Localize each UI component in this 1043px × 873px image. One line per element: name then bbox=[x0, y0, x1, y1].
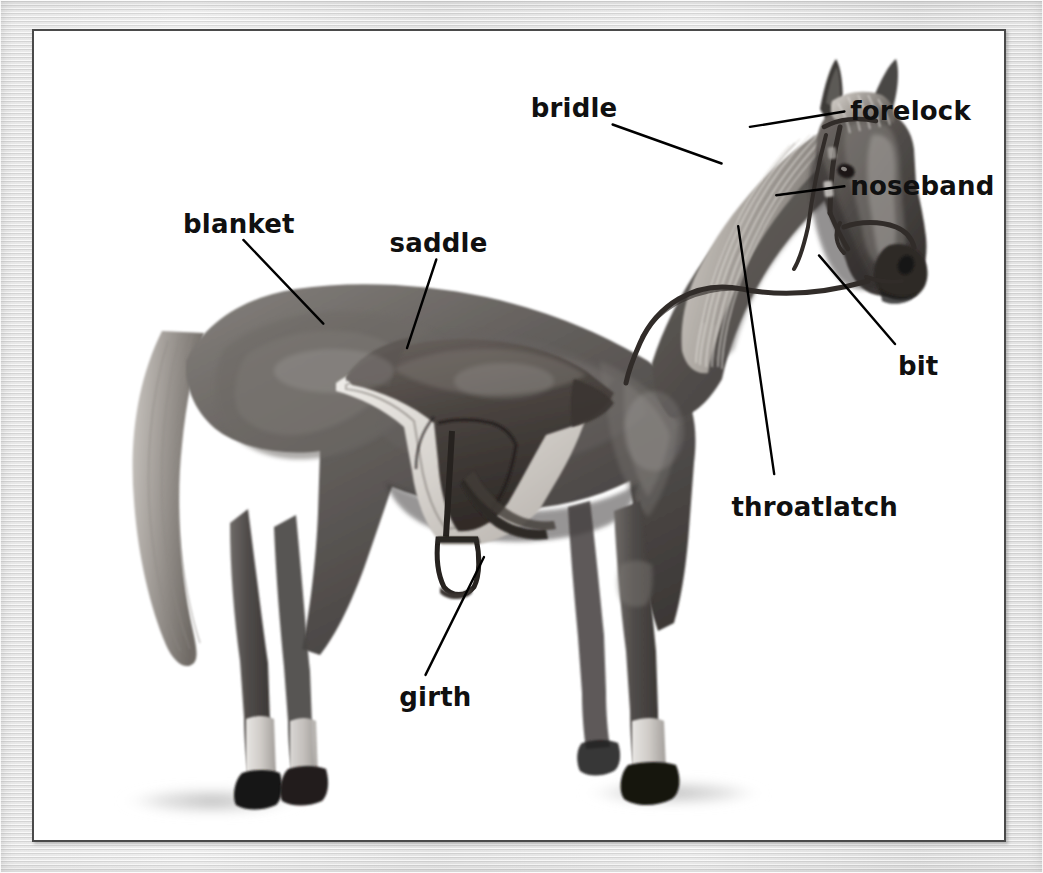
label-noseband[interactable]: noseband bbox=[850, 173, 994, 199]
label-saddle[interactable]: saddle bbox=[390, 230, 488, 256]
label-blanket[interactable]: blanket bbox=[183, 211, 295, 237]
screenshot-stage: bridle forelock noseband bit throatlatch… bbox=[0, 0, 1043, 873]
horse-illustration bbox=[34, 31, 1006, 842]
label-girth[interactable]: girth bbox=[399, 684, 471, 710]
label-bridle[interactable]: bridle bbox=[531, 95, 618, 121]
label-throatlatch[interactable]: throatlatch bbox=[731, 494, 898, 520]
label-bit[interactable]: bit bbox=[898, 353, 939, 379]
label-forelock[interactable]: forelock bbox=[850, 98, 971, 124]
diagram-panel: bridle forelock noseband bit throatlatch… bbox=[32, 29, 1006, 842]
